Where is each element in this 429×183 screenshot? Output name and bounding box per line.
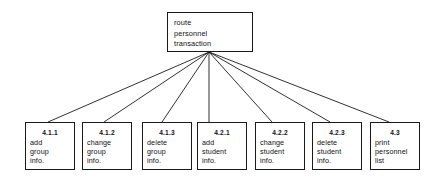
- node-text-line: student: [202, 147, 246, 156]
- node-text-line: delete: [317, 138, 361, 147]
- edge-root-to-child-1: [48, 52, 209, 122]
- node-4-3[interactable]: 4.3printpersonnellist: [370, 122, 420, 170]
- node-4-1-3[interactable]: 4.1.3deletegroupinfo.: [142, 122, 192, 170]
- node-text-line: student: [260, 147, 304, 156]
- node-number: 4.2.3: [317, 127, 361, 138]
- node-text-line: info.: [147, 156, 191, 165]
- edge-root-to-child-5: [209, 52, 272, 122]
- node-text-line: info.: [260, 156, 304, 165]
- node-4-2-3-label: 4.2.3deletestudentinfo.: [317, 127, 361, 166]
- node-text-line: delete: [147, 138, 191, 147]
- node-4-1-1-label: 4.1.1addgroupinfo.: [30, 127, 74, 166]
- node-text-line: info.: [30, 156, 74, 165]
- node-number: 4.3: [375, 127, 419, 138]
- node-text-line: transaction: [174, 39, 252, 50]
- node-4-2-2-label: 4.2.2changestudentinfo.: [260, 127, 304, 166]
- node-root[interactable]: routepersonneltransaction: [167, 12, 253, 52]
- node-text-line: info.: [87, 156, 131, 165]
- node-number: 4.2.2: [260, 127, 304, 138]
- node-text-line: route: [174, 18, 252, 29]
- node-4-2-2[interactable]: 4.2.2changestudentinfo.: [255, 122, 305, 170]
- node-4-1-2[interactable]: 4.1.2changegroupinfo.: [82, 122, 132, 170]
- structure-chart-canvas: routepersonneltransaction 4.1.1addgroupi…: [0, 0, 429, 183]
- edge-root-to-child-6: [209, 52, 330, 122]
- node-4-1-3-label: 4.1.3deletegroupinfo.: [147, 127, 191, 166]
- node-4-2-1-label: 4.2.1addstudentinfo.: [202, 127, 246, 166]
- node-text-line: personnel: [375, 147, 419, 156]
- node-text-line: change: [87, 138, 131, 147]
- edge-root-to-child-7: [209, 52, 389, 122]
- node-text-line: group: [87, 147, 131, 156]
- node-text-line: group: [147, 147, 191, 156]
- node-text-line: info.: [202, 156, 246, 165]
- node-number: 4.2.1: [202, 127, 246, 138]
- node-text-line: add: [30, 138, 74, 147]
- node-text-line: list: [375, 156, 419, 165]
- node-4-2-1[interactable]: 4.2.1addstudentinfo.: [197, 122, 247, 170]
- node-number: 4.1.1: [30, 127, 74, 138]
- node-text-line: print: [375, 138, 419, 147]
- node-number: 4.1.2: [87, 127, 131, 138]
- node-text-line: personnel: [174, 29, 252, 40]
- node-4-3-label: 4.3printpersonnellist: [375, 127, 419, 166]
- node-text-line: change: [260, 138, 304, 147]
- node-4-1-1[interactable]: 4.1.1addgroupinfo.: [25, 122, 75, 170]
- node-text-line: student: [317, 147, 361, 156]
- node-text-line: info.: [317, 156, 361, 165]
- node-number: 4.1.3: [147, 127, 191, 138]
- node-root-label: routepersonneltransaction: [174, 18, 252, 50]
- node-4-2-3[interactable]: 4.2.3deletestudentinfo.: [312, 122, 362, 170]
- node-text-line: group: [30, 147, 74, 156]
- node-4-1-2-label: 4.1.2changegroupinfo.: [87, 127, 131, 166]
- node-text-line: add: [202, 138, 246, 147]
- edge-root-to-child-2: [104, 52, 209, 122]
